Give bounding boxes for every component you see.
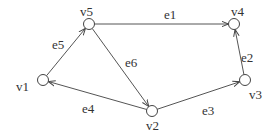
node-v2 <box>147 106 158 117</box>
edge-label-e5: e5 <box>52 37 64 52</box>
node-label-v4: v4 <box>231 4 245 19</box>
node-v5 <box>84 19 95 30</box>
edge-e6 <box>92 28 149 106</box>
node-label-v1: v1 <box>16 79 29 94</box>
node-v4 <box>229 19 240 30</box>
edge-e4 <box>48 82 146 110</box>
edges-layer <box>46 24 243 109</box>
graph-diagram: e1e2e3e4e5e6v1v2v3v4v5 <box>0 0 277 136</box>
node-v1 <box>38 75 49 86</box>
edge-label-e6: e6 <box>125 55 138 70</box>
edge-label-e1: e1 <box>164 7 176 22</box>
edge-e3 <box>157 82 240 110</box>
nodes-layer <box>38 19 251 117</box>
edge-label-e2: e2 <box>241 50 253 65</box>
edge-label-e3: e3 <box>202 103 214 118</box>
node-v3 <box>240 75 251 86</box>
node-label-v3: v3 <box>249 87 262 102</box>
node-label-v5: v5 <box>80 4 93 19</box>
edge-label-e4: e4 <box>82 101 95 116</box>
graph-svg: e1e2e3e4e5e6v1v2v3v4v5 <box>0 0 277 136</box>
node-label-v2: v2 <box>146 118 159 133</box>
edge-e5 <box>46 28 85 76</box>
